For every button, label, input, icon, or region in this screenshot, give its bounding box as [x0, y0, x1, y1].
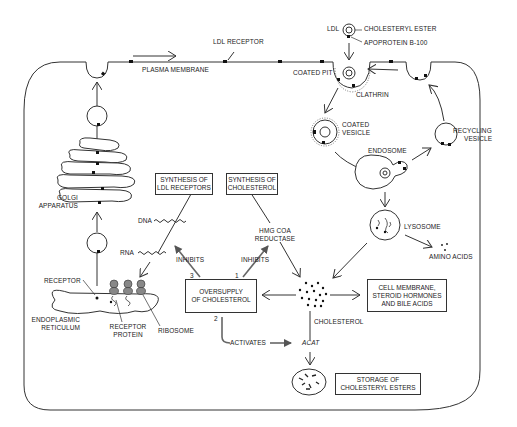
label-ribosome: RIBOSOME	[158, 327, 194, 335]
label-coated: COATED	[342, 121, 369, 129]
label-acat: ACAT	[302, 339, 319, 347]
cholesterol-dots	[299, 282, 327, 307]
label-plasma-membrane: PLASMA MEMBRANE	[142, 66, 209, 74]
box-storage-line1: STORAGE OF	[357, 376, 400, 384]
box-cell-membrane-line1: CELL MEMBRANE,	[378, 284, 435, 292]
endosome	[355, 155, 407, 189]
label-coated-vesicle: VESICLE	[342, 129, 370, 137]
dna-strand	[154, 220, 186, 223]
label-recycling-vesicle: VESICLE	[464, 135, 492, 143]
label-ldl: LDL	[327, 25, 339, 33]
box-synthesis-ldl-line2: LDL RECEPTORS	[157, 184, 211, 192]
golgi-apparatus	[57, 138, 135, 202]
label-receptor-protein-2: PROTEIN	[108, 331, 148, 339]
secretory-vesicle-top	[87, 106, 107, 126]
box-oversupply: OVERSUPPLY OF CHOLESTEROL	[185, 279, 257, 313]
label-lysosome: LYSOSOME	[404, 223, 441, 231]
ldl-particle	[343, 24, 362, 42]
box-synthesis-chol-line2: CHOLESTEROL	[228, 184, 276, 192]
box-oversupply-line2: OF CHOLESTEROL	[191, 296, 250, 304]
label-ldl-receptor: LDL RECEPTOR	[213, 38, 264, 46]
label-reticulum: RETICULUM	[28, 324, 80, 332]
label-recycling: RECYCLING	[453, 127, 492, 135]
ribosomes	[110, 280, 146, 295]
label-reductase: REDUCTASE	[251, 235, 299, 243]
box-cell-membrane-line3: AND BILE ACIDS	[382, 300, 433, 308]
box-synthesis-chol-line1: SYNTHESIS OF	[228, 176, 276, 184]
label-cholesterol: CHOLESTEROL	[314, 318, 364, 326]
label-hmg: HMG CoA	[255, 227, 295, 235]
box-storage: STORAGE OF CHOLESTERYL ESTERS	[335, 373, 421, 395]
label-cholesteryl-ester: CHOLESTERYL ESTER	[364, 25, 437, 33]
transport-vesicle	[87, 233, 107, 253]
label-inhibits-left: INHIBITS	[176, 256, 204, 264]
box-storage-line2: CHOLESTERYL ESTERS	[340, 384, 415, 392]
label-clathrin: CLATHRIN	[356, 91, 389, 99]
box-oversupply-line1: OVERSUPPLY	[199, 288, 243, 296]
label-coated-pit: COATED PIT	[293, 69, 333, 77]
box-cell-membrane-line2: STEROID HORMONES	[373, 292, 442, 300]
box-synthesis-ldl-receptors: SYNTHESIS OF LDL RECEPTORS	[155, 173, 213, 195]
label-endoplasmic: ENDOPLASMIC	[28, 316, 80, 324]
label-golgi: GOLGI	[28, 194, 78, 202]
storage-droplet	[292, 369, 326, 395]
label-receptor-protein-1: RECEPTOR	[108, 323, 148, 331]
label-receptor: RECEPTOR	[44, 277, 81, 285]
ldl-pathway-diagram	[0, 0, 517, 427]
label-dna: DNA	[138, 217, 152, 225]
box-synthesis-cholesterol: SYNTHESIS OF CHOLESTEROL	[226, 173, 278, 195]
label-step-2: 2	[214, 315, 218, 323]
amino-acid-dots	[441, 243, 448, 251]
label-golgi-apparatus: APPARATUS	[20, 202, 78, 210]
box-synthesis-ldl-line1: SYNTHESIS OF	[160, 176, 208, 184]
label-amino-acids: AMINO ACIDS	[429, 253, 473, 261]
label-endosome: ENDOSOME	[368, 147, 407, 155]
rna-strand	[138, 252, 166, 255]
label-inhibits-right: INHIBITS	[241, 256, 269, 264]
lysosome	[370, 210, 400, 240]
label-apoprotein: APOPROTEIN B-100	[364, 39, 427, 47]
label-rna: RNA	[120, 249, 134, 257]
coated-vesicle	[311, 118, 339, 146]
box-cell-membrane: CELL MEMBRANE, STEROID HORMONES AND BILE…	[367, 279, 447, 312]
label-activates: ACTIVATES	[230, 339, 266, 347]
